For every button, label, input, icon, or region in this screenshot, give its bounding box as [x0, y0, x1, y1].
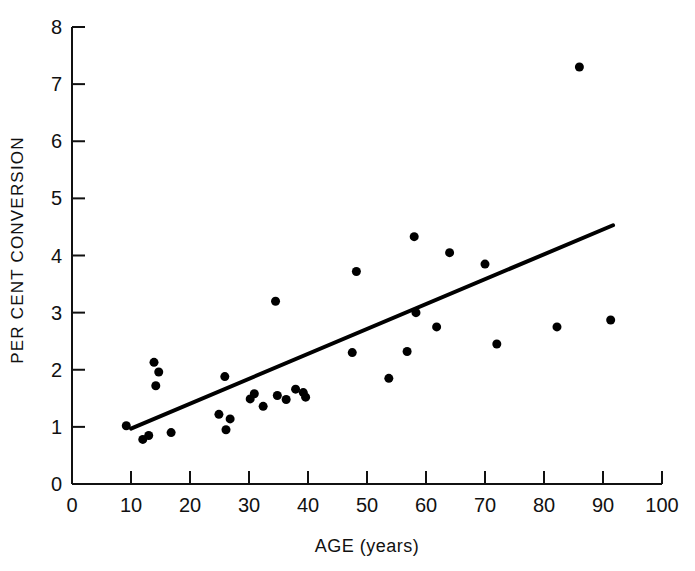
data-point: [122, 421, 131, 430]
figure-caption-strip: [0, 558, 695, 571]
data-point: [273, 391, 282, 400]
data-point: [301, 393, 310, 402]
figure-container: 012345678 0102030405060708090100 AGE (ye…: [0, 0, 695, 571]
regression-line-segment: [131, 225, 613, 428]
x-tick-label: 100: [645, 494, 678, 516]
data-point: [151, 381, 160, 390]
data-point: [221, 425, 230, 434]
data-point: [214, 410, 223, 419]
data-point: [282, 395, 291, 404]
y-tick-label: 5: [51, 187, 62, 209]
y-tick-label: 6: [51, 130, 62, 152]
y-tick-label: 2: [51, 359, 62, 381]
scatter-plot: 012345678 0102030405060708090100 AGE (ye…: [0, 0, 695, 571]
data-point: [167, 428, 176, 437]
y-tick-label: 1: [51, 416, 62, 438]
x-tick-label: 50: [356, 494, 378, 516]
data-point: [226, 414, 235, 423]
y-tick-label: 3: [51, 302, 62, 324]
x-tick-label: 70: [474, 494, 496, 516]
y-axis-title: PER CENT CONVERSION: [8, 136, 28, 363]
x-tick-label: 0: [66, 494, 77, 516]
data-points: [122, 62, 615, 443]
y-tick-labels: 012345678: [51, 16, 62, 495]
data-point: [445, 248, 454, 257]
data-point: [271, 297, 280, 306]
x-tick-label: 90: [592, 494, 614, 516]
data-point: [250, 389, 259, 398]
y-tick-label: 4: [51, 245, 62, 267]
data-point: [411, 308, 420, 317]
data-point: [150, 358, 159, 367]
data-point: [492, 340, 501, 349]
y-tick-marks: [72, 27, 85, 427]
data-point: [410, 232, 419, 241]
y-tick-label: 0: [51, 473, 62, 495]
x-tick-label: 20: [179, 494, 201, 516]
data-point: [291, 385, 300, 394]
x-tick-label: 40: [297, 494, 319, 516]
x-tick-label: 80: [533, 494, 555, 516]
data-point: [144, 431, 153, 440]
x-tick-label: 10: [120, 494, 142, 516]
data-point: [259, 402, 268, 411]
y-tick-label: 8: [51, 16, 62, 38]
data-point: [384, 374, 393, 383]
data-point: [552, 322, 561, 331]
x-tick-label: 60: [415, 494, 437, 516]
data-point: [348, 348, 357, 357]
x-tick-label: 30: [238, 494, 260, 516]
data-point: [575, 62, 584, 71]
y-tick-label: 7: [51, 73, 62, 95]
regression-line: [131, 225, 613, 428]
data-point: [220, 372, 229, 381]
x-tick-labels: 0102030405060708090100: [66, 494, 678, 516]
data-point: [352, 267, 361, 276]
data-point: [432, 322, 441, 331]
data-point: [606, 316, 615, 325]
data-point: [403, 347, 412, 356]
data-point: [481, 260, 490, 269]
x-axis-title: AGE (years): [315, 536, 420, 556]
x-tick-marks: [131, 471, 662, 484]
y-axis-title-wrap: PER CENT CONVERSION: [0, 0, 38, 500]
data-point: [154, 368, 163, 377]
